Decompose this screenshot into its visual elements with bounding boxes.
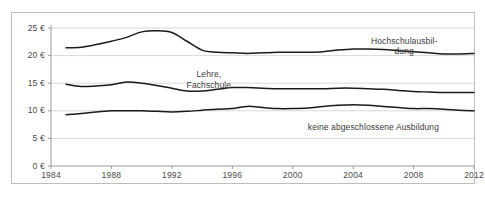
x-tick-label: 1984 xyxy=(29,170,73,180)
x-tick-label: 1996 xyxy=(210,170,254,180)
chart-figure: 0 €5 €10 €15 €20 €25 € 19841988199219962… xyxy=(0,0,485,197)
annotation-line-1: Hochschulausbil- xyxy=(362,36,446,47)
y-tick-label: 10 € xyxy=(12,105,45,115)
chart-plot-border: 0 €5 €10 €15 €20 €25 € 19841988199219962… xyxy=(11,12,475,184)
y-tick-label: 0 € xyxy=(12,161,45,171)
x-tick-label: 2008 xyxy=(392,170,436,180)
annotation-line-1: keine abgeschlossene Ausbildung xyxy=(308,122,478,133)
series-annotation-1: Lehre,Fachschule xyxy=(172,69,246,90)
annotation-line-1: Lehre, xyxy=(172,69,246,80)
series-annotation-2: keine abgeschlossene Ausbildung xyxy=(308,122,478,133)
y-tick-label: 20 € xyxy=(12,50,45,60)
y-tick-label: 5 € xyxy=(12,133,45,143)
annotation-line-2: Fachschule xyxy=(172,80,246,91)
y-tick-label: 15 € xyxy=(12,78,45,88)
series-annotation-0: Hochschulausbil-dung xyxy=(362,36,446,57)
x-tick-label: 1992 xyxy=(150,170,194,180)
y-tick-label: 25 € xyxy=(12,23,45,33)
series-line-2 xyxy=(66,105,474,115)
cropped-title-remnant xyxy=(150,0,330,4)
x-tick-label: 1988 xyxy=(89,170,133,180)
annotation-line-2: dung xyxy=(362,46,446,57)
x-tick-label: 2004 xyxy=(331,170,375,180)
x-tick-label: 2012 xyxy=(452,170,485,180)
x-tick-label: 2000 xyxy=(271,170,315,180)
